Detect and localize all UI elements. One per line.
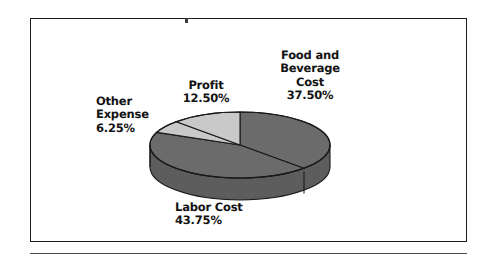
figure-frame <box>30 18 467 242</box>
figure-page: Other Expense 6.25% Profit 12.50% Food a… <box>0 0 494 257</box>
top-border-tick-mark <box>185 18 188 23</box>
lower-rule-divider <box>30 253 467 254</box>
